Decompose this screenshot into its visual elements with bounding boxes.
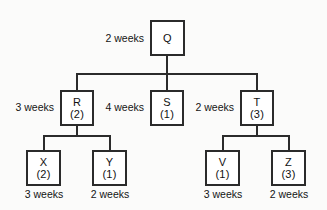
- edge-t-to-v: [222, 135, 224, 151]
- edge-t-to-z: [288, 135, 290, 151]
- node-t-id: T: [254, 96, 261, 108]
- duration-label-y: 2 weeks: [84, 188, 136, 200]
- node-v[interactable]: V (1): [205, 150, 240, 186]
- duration-label-r: 3 weeks: [2, 101, 54, 113]
- node-r-count: (2): [70, 108, 84, 120]
- node-v-id: V: [219, 156, 227, 168]
- edge-q-stem: [166, 55, 168, 75]
- tree-diagram: Q 2 weeks R (2) 3 weeks S (1) 4 weeks T …: [0, 0, 327, 210]
- duration-label-q: 2 weeks: [92, 32, 144, 44]
- node-r-id: R: [73, 96, 81, 108]
- edge-r-bus: [43, 135, 111, 137]
- node-t[interactable]: T (3): [240, 90, 274, 126]
- edge-r-to-x: [43, 135, 45, 151]
- duration-label-s: 4 weeks: [92, 101, 144, 113]
- node-z-id: Z: [285, 156, 292, 168]
- node-z[interactable]: Z (3): [271, 150, 306, 186]
- node-y[interactable]: Y (1): [92, 150, 127, 186]
- node-t-count: (3): [250, 108, 264, 120]
- node-x[interactable]: X (2): [26, 150, 61, 186]
- node-y-id: Y: [106, 156, 114, 168]
- node-z-count: (3): [281, 168, 295, 180]
- node-s[interactable]: S (1): [150, 90, 184, 126]
- node-q[interactable]: Q: [150, 20, 185, 56]
- node-s-count: (1): [160, 108, 174, 120]
- node-x-id: X: [40, 156, 48, 168]
- node-r[interactable]: R (2): [60, 90, 94, 126]
- edge-q-to-s: [166, 73, 168, 90]
- edge-q-to-r: [76, 73, 78, 90]
- duration-label-v: 3 weeks: [197, 188, 249, 200]
- duration-label-t: 2 weeks: [182, 101, 234, 113]
- edge-q-to-t: [256, 73, 258, 90]
- edge-r-to-y: [109, 135, 111, 151]
- edge-t-bus: [222, 135, 290, 137]
- node-v-count: (1): [215, 168, 229, 180]
- duration-label-x: 3 weeks: [18, 188, 70, 200]
- node-s-id: S: [163, 96, 171, 108]
- node-y-count: (1): [102, 168, 116, 180]
- duration-label-z: 2 weeks: [263, 188, 315, 200]
- node-q-id: Q: [163, 32, 172, 44]
- node-x-count: (2): [36, 168, 50, 180]
